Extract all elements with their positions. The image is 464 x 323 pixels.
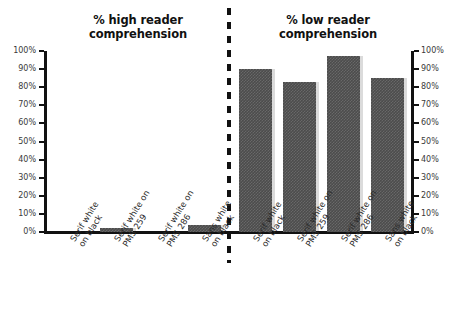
right-panel-title-line1: % low reader — [238, 13, 418, 27]
left-tick-mark — [39, 122, 44, 124]
right-tick-label: 50% — [421, 138, 439, 146]
left-panel-title-line2: comprehension — [48, 27, 228, 41]
left-tick-label: 30% — [18, 174, 36, 182]
left-tick-mark — [39, 177, 44, 179]
right-tick-mark — [414, 122, 419, 124]
left-tick-mark — [39, 141, 44, 143]
left-tick-label: 70% — [18, 101, 36, 109]
right-tick-mark — [414, 104, 419, 106]
left-tick-mark — [39, 50, 44, 52]
right-tick-mark — [414, 86, 419, 88]
left-tick-label: 60% — [18, 119, 36, 127]
left-tick-label: 100% — [13, 47, 36, 55]
right-tick-label: 40% — [421, 156, 439, 164]
left-tick-mark — [39, 213, 44, 215]
right-tick-mark — [414, 68, 419, 70]
left-tick-label: 10% — [18, 210, 36, 218]
left-tick-label: 20% — [18, 192, 36, 200]
right-tick-mark — [414, 231, 419, 233]
left-tick-label: 90% — [18, 65, 36, 73]
left-tick-mark — [39, 86, 44, 88]
left-tick-mark — [39, 195, 44, 197]
right-tick-label: 60% — [421, 119, 439, 127]
left-tick-mark — [39, 104, 44, 106]
right-panel-title: % low reader comprehension — [238, 13, 418, 42]
right-tick-mark — [414, 159, 419, 161]
right-tick-label: 90% — [421, 65, 439, 73]
left-tick-mark — [39, 68, 44, 70]
left-tick-label: 80% — [18, 83, 36, 91]
right-tick-label: 100% — [421, 47, 444, 55]
bar-fill — [239, 69, 272, 232]
right-tick-label: 0% — [421, 228, 434, 236]
bar-low-1 — [239, 69, 272, 232]
left-panel-title-line1: % high reader — [48, 13, 228, 27]
right-tick-mark — [414, 141, 419, 143]
right-tick-mark — [414, 177, 419, 179]
right-panel-title-line2: comprehension — [238, 27, 418, 41]
left-panel-title: % high reader comprehension — [48, 13, 228, 42]
chart-figure: % high reader comprehension % low reader… — [0, 0, 464, 323]
left-tick-label: 50% — [18, 138, 36, 146]
left-tick-label: 0% — [23, 228, 36, 236]
right-tick-label: 70% — [421, 101, 439, 109]
left-tick-mark — [39, 159, 44, 161]
right-tick-label: 80% — [421, 83, 439, 91]
right-tick-mark — [414, 50, 419, 52]
left-tick-label: 40% — [18, 156, 36, 164]
left-tick-mark — [39, 231, 44, 233]
right-tick-label: 10% — [421, 210, 439, 218]
